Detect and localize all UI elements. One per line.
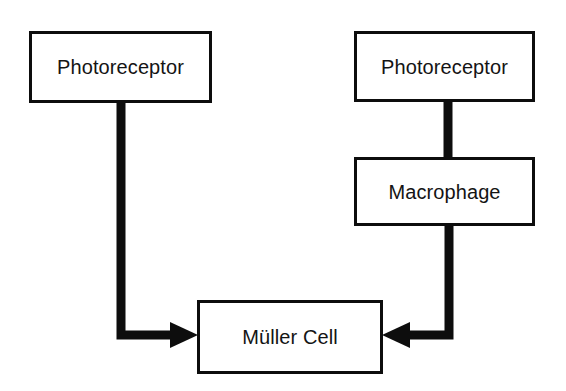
node-macrophage: Macrophage	[354, 157, 535, 226]
node-label: Macrophage	[388, 182, 500, 202]
connector-macrophage-to-muller-cell	[382, 226, 449, 348]
node-label: Müller Cell	[242, 327, 338, 347]
diagram-canvas: Photoreceptor Photoreceptor Macrophage M…	[0, 0, 566, 391]
node-label: Photoreceptor	[57, 57, 184, 77]
node-muller-cell: Müller Cell	[197, 300, 383, 374]
arrowhead-icon	[382, 322, 410, 348]
node-photoreceptor-left: Photoreceptor	[29, 31, 212, 103]
node-photoreceptor-right: Photoreceptor	[354, 31, 535, 102]
arrowhead-icon	[170, 322, 198, 348]
connector-photoreceptor-left-to-muller-cell	[121, 103, 198, 348]
node-label: Photoreceptor	[381, 57, 508, 77]
